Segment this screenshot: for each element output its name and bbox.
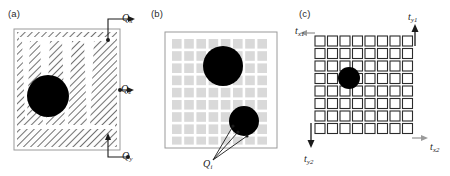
panel-a-label-qx: Qx: [122, 12, 132, 23]
panel-b-inclusion-2: [229, 106, 259, 136]
panel-c-label-tx1: tx1: [295, 25, 304, 36]
panel-b-inclusion-1: [203, 46, 243, 86]
panel-b-leader-dot-2: [236, 130, 239, 133]
panel-c-label-ty1: ty1: [408, 11, 417, 22]
panel-c: (c): [293, 0, 450, 176]
panel-a-anchor-qx: [106, 38, 110, 42]
panel-b-graphic: [143, 0, 298, 176]
panel-c-label-tx2: tx2: [430, 141, 439, 152]
panel-c-inclusion: [338, 67, 360, 89]
panel-c-mesh: [315, 36, 413, 134]
panel-c-arrowhead-ty1: [412, 24, 419, 32]
panel-a: (a): [0, 0, 150, 176]
figure-root: (a): [0, 0, 450, 176]
panel-b: (b): [143, 0, 298, 176]
panel-b-leader-dot-1: [231, 124, 234, 127]
panel-a-inclusion: [27, 75, 69, 117]
panel-c-label-ty2: ty2: [304, 153, 313, 164]
panel-b-label-qi: Qi: [203, 158, 212, 169]
panel-c-arrowhead-ty2: [308, 140, 315, 148]
panel-c-graphic: [293, 0, 450, 176]
panel-a-label-qy: Qy: [122, 150, 132, 161]
panel-a-label-qz: Qz: [121, 83, 131, 94]
panel-b-leader-dot-3: [245, 134, 248, 137]
panel-c-arrowhead-tx2: [421, 135, 428, 141]
